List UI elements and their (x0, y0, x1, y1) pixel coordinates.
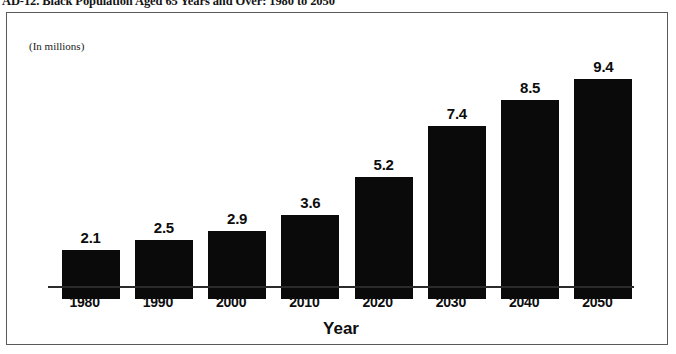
bar-item[interactable]: 9.4 (567, 53, 640, 299)
bar-item[interactable]: 3.6 (274, 53, 347, 299)
bar-value-label: 9.4 (593, 59, 613, 74)
bar-value-label: 2.1 (80, 230, 100, 245)
bar-item[interactable]: 7.4 (420, 53, 493, 299)
x-axis-title: Year (48, 319, 634, 339)
bar-item[interactable]: 2.5 (127, 53, 200, 299)
bar-item[interactable]: 5.2 (347, 53, 420, 299)
bar-item[interactable]: 8.5 (494, 53, 567, 299)
x-tick-label: 2050 (561, 294, 634, 310)
plot-area: 2.1 2.5 2.9 3.6 5.2 7.4 (54, 53, 640, 299)
bar-value-label: 7.4 (447, 106, 467, 121)
x-tick-label: 2010 (268, 294, 341, 310)
bar-item[interactable]: 2.9 (201, 53, 274, 299)
units-label: (In millions) (29, 40, 84, 52)
figure-frame: (In millions) 2.1 2.5 2.9 3.6 5.2 (6, 12, 668, 345)
x-tick-label: 2020 (341, 294, 414, 310)
bar-rect[interactable] (428, 126, 486, 299)
document-title: AD-12. Black Population Aged 65 Years an… (2, 0, 674, 8)
bar-value-label: 3.6 (300, 195, 320, 210)
bar-rect[interactable] (135, 240, 193, 299)
x-tick-label: 2000 (195, 294, 268, 310)
bar-value-label: 2.5 (154, 220, 174, 235)
bar-item[interactable]: 2.1 (54, 53, 127, 299)
bar-series: 2.1 2.5 2.9 3.6 5.2 7.4 (54, 53, 640, 299)
bar-rect[interactable] (501, 100, 559, 299)
x-axis-line (48, 286, 634, 288)
x-tick-label: 2040 (488, 294, 561, 310)
x-axis-tick-labels: 1980 1990 2000 2010 2020 2030 2040 2050 (48, 294, 634, 310)
x-tick-label: 2030 (414, 294, 487, 310)
bar-rect[interactable] (62, 250, 120, 299)
x-tick-label: 1990 (121, 294, 194, 310)
bar-value-label: 8.5 (520, 80, 540, 95)
bar-rect[interactable] (355, 177, 413, 299)
bar-value-label: 5.2 (373, 157, 393, 172)
bar-rect[interactable] (208, 231, 266, 299)
x-tick-label: 1980 (48, 294, 121, 310)
bar-rect[interactable] (574, 79, 632, 299)
bar-value-label: 2.9 (227, 211, 247, 226)
